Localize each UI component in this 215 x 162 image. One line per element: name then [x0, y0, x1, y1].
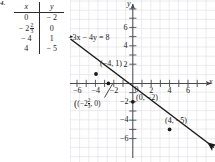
- axes: [70, 4, 211, 158]
- table-row: − 4 1: [14, 34, 64, 44]
- y-tick-label-6: 6: [123, 23, 127, 32]
- y-tick-label-neg4: −4: [120, 115, 129, 124]
- cell-x: 0: [14, 13, 39, 24]
- point-4-neg5: [168, 127, 172, 131]
- cell-y: − 5: [39, 44, 64, 54]
- equation-text: −3x − 4y = 8: [68, 33, 110, 42]
- cell-y: 1: [39, 34, 64, 44]
- column-header-x: x: [14, 2, 39, 13]
- table-row: 0 − 2: [14, 13, 64, 24]
- column-header-y: y: [39, 2, 64, 13]
- origin-label: 0: [135, 85, 139, 94]
- x-intercept-suffix: , 0): [90, 99, 100, 108]
- table-row: 4 − 5: [14, 44, 64, 54]
- grid-lines: [70, 0, 215, 162]
- point-label-4-neg5: (4, −5): [165, 116, 187, 125]
- x-tick-label-neg4: −4: [91, 86, 100, 95]
- table-row: − 223 0: [14, 23, 64, 34]
- point-label-0-neg2: (0, −2): [136, 93, 158, 102]
- y-tick-label-neg6: −6: [120, 134, 129, 143]
- y-tick-label-2: 2: [123, 60, 127, 69]
- x-tick-label-2: 2: [149, 86, 153, 95]
- coordinate-graph: −3x − 4y = 8 (−4, 1) ((−223, 0) (0, −2) …: [70, 0, 215, 162]
- xy-value-table: x y 0 − 2 − 223 0 − 4 1 4 − 5: [14, 2, 64, 54]
- cell-x: − 4: [14, 34, 39, 44]
- x-tick-label-6: 6: [186, 86, 190, 95]
- y-tick-label-4: 4: [123, 41, 127, 50]
- cell-x-whole: − 2: [19, 24, 30, 33]
- cell-x: − 223: [14, 23, 39, 34]
- y-tick-label-neg2: −2: [120, 97, 129, 106]
- point-0-neg2: [131, 100, 135, 104]
- point-label-x-intercept: ((−223, 0): [74, 98, 100, 109]
- x-intercept-whole: (−2: [77, 99, 87, 108]
- cell-y: 0: [39, 23, 64, 34]
- table: x y 0 − 2 − 223 0 − 4 1 4 − 5: [14, 2, 64, 54]
- table-header-row: x y: [14, 2, 64, 13]
- point-neg4-1: [94, 72, 98, 76]
- x-tick-label-neg6: −6: [73, 86, 82, 95]
- cell-x-fraction: 23: [30, 23, 34, 34]
- problem-number: 4.: [0, 0, 5, 7]
- point-label-neg4-1: (−4, 1): [100, 59, 122, 68]
- x-tick-label-neg2: −2: [110, 86, 119, 95]
- x-axis-label: x: [209, 77, 213, 86]
- cell-y: − 2: [39, 13, 64, 24]
- point-xint: [107, 82, 111, 86]
- graph-canvas: [70, 0, 215, 162]
- x-tick-label-4: 4: [168, 86, 172, 95]
- equation-label: −3x − 4y = 8: [68, 33, 110, 42]
- cell-x: 4: [14, 44, 39, 54]
- y-axis-label: y: [127, 0, 131, 8]
